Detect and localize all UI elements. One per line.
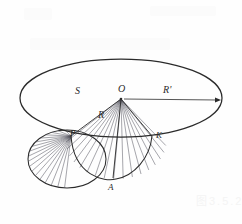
figure-label-A: A [108, 183, 114, 192]
cone-ray [121, 99, 155, 165]
figure-label-Rp: R' [163, 85, 172, 95]
figure-canvas [0, 0, 242, 224]
cone-ray [104, 99, 121, 178]
left-sector-group [28, 130, 106, 188]
cone-base-group [71, 99, 152, 180]
radius-prime-line [124, 99, 217, 100]
figure-label-K: K [156, 131, 162, 140]
scan-artifact [30, 38, 170, 50]
figure-label-S: S [75, 86, 80, 96]
figure-label-P: P [70, 129, 76, 138]
sector-hatch-line [29, 136, 71, 151]
radius-prime-arrowhead [215, 98, 221, 103]
cone-slant-OP [71, 99, 121, 136]
scan-artifact [150, 6, 216, 16]
figure-label-R: R [98, 110, 104, 120]
sector-hatch-line [45, 136, 71, 183]
sector-hatch-line [28, 136, 71, 156]
cone-fan-group [66, 99, 166, 179]
figure-label-O: O [118, 84, 125, 94]
page-watermark: 图3.5.2 [196, 192, 242, 208]
scan-artifact [24, 8, 52, 20]
radius-arrow-group [124, 98, 221, 103]
apex-point-O-dot [120, 98, 123, 101]
vertex-points-group [120, 98, 123, 101]
geometry-figure: SOR'RPKA 图3.5.2 [0, 0, 242, 224]
cone-ray [70, 99, 121, 156]
